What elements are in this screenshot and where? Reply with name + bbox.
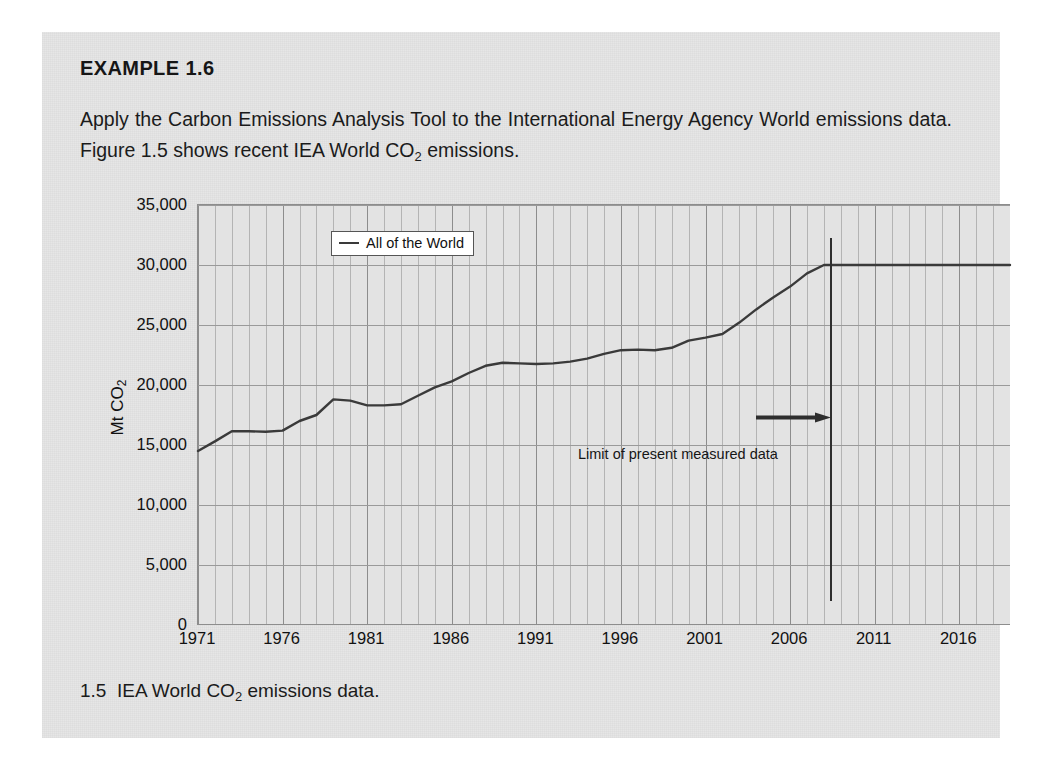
data-series-layer: [198, 205, 1010, 625]
figure-caption: 1.5 IEA World CO2 emissions data.: [80, 680, 379, 704]
y-tick-label: 5,000: [111, 555, 187, 574]
x-axis-tick-labels: 1971197619811986199119962001200620112016: [197, 629, 1009, 655]
chart-figure: Mt CO2 05,00010,00015,00020,00025,00030,…: [80, 192, 970, 712]
x-tick-label: 1991: [517, 629, 554, 648]
example-body-text: Apply the Carbon Emissions Analysis Tool…: [80, 104, 952, 172]
x-tick-label: 1986: [432, 629, 469, 648]
page-canvas: EXAMPLE 1.6 Apply the Carbon Emissions A…: [0, 0, 1043, 772]
series-line-all-of-the-world: [198, 265, 1010, 451]
plot-area: Limit of present measured data All of th…: [197, 204, 1010, 625]
x-tick-label: 1996: [602, 629, 639, 648]
x-tick-label: 2011: [856, 629, 891, 648]
limit-of-measured-data-label: Limit of present measured data: [578, 446, 778, 462]
y-tick-label: 25,000: [111, 315, 187, 334]
legend-label-all-of-the-world: All of the World: [366, 235, 464, 251]
x-tick-label: 1981: [348, 629, 385, 648]
y-axis-tick-labels: 05,00010,00015,00020,00025,00030,00035,0…: [109, 192, 187, 712]
x-axis-line: [197, 624, 1010, 625]
limit-arrow-icon: [755, 412, 831, 423]
example-box: EXAMPLE 1.6 Apply the Carbon Emissions A…: [42, 32, 1000, 738]
example-body-subscript: 2: [415, 149, 422, 164]
x-tick-label: 2016: [940, 629, 977, 648]
x-tick-label: 1976: [263, 629, 300, 648]
y-tick-label: 35,000: [111, 195, 187, 214]
caption-text-part2: emissions data.: [242, 680, 379, 701]
chart-legend: All of the World: [331, 231, 474, 256]
x-tick-label: 2006: [771, 629, 808, 648]
x-tick-label: 2001: [686, 629, 723, 648]
y-tick-label: 0: [111, 615, 187, 634]
caption-number: 1.5: [80, 680, 106, 701]
y-tick-label: 10,000: [111, 495, 187, 514]
y-tick-label: 15,000: [111, 435, 187, 454]
example-heading: EXAMPLE 1.6: [80, 57, 214, 80]
x-tick-label: 1971: [179, 629, 216, 648]
caption-text-part1: IEA World CO: [117, 680, 235, 701]
legend-swatch-icon: [339, 242, 359, 244]
example-body-part2: emissions.: [422, 139, 520, 161]
y-tick-label: 20,000: [111, 375, 187, 394]
y-tick-label: 30,000: [111, 255, 187, 274]
